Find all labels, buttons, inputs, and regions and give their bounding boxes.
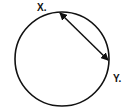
- circle: [15, 12, 109, 106]
- circle-diagram: X. Y.: [0, 0, 124, 109]
- chord-arrow-x-y: [60, 13, 108, 60]
- label-x: X.: [37, 2, 47, 13]
- label-y: Y.: [113, 73, 122, 84]
